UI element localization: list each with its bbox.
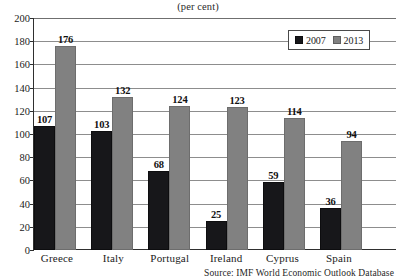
bar-value-label: 107 [37, 114, 52, 125]
bar-spain-2007[interactable]: 36 [320, 208, 341, 250]
bar-cyprus-2007[interactable]: 59 [263, 182, 284, 250]
x-axis-label-cyprus: Cyprus [260, 252, 306, 264]
bar-value-label: 123 [229, 95, 244, 106]
bar-fill [341, 141, 362, 250]
y-axis-tick-label: 120 [14, 105, 30, 116]
bar-group: 59114 [263, 18, 305, 250]
x-axis-label-italy: Italy [90, 252, 136, 264]
chart-legend: 20072013 [288, 30, 370, 50]
y-axis-tick-label: 200 [14, 13, 30, 24]
bar-portugal-2013[interactable]: 124 [169, 106, 190, 250]
source-note: Source: IMF World Economic Outlook Datab… [204, 268, 394, 278]
bar-group: 68124 [148, 18, 190, 250]
legend-swatch-2013 [333, 36, 341, 44]
bar-italy-2007[interactable]: 103 [91, 131, 112, 250]
x-axis-label-spain: Spain [316, 252, 362, 264]
x-axis-label-portugal: Portugal [147, 252, 193, 264]
x-axis-label-ireland: Ireland [203, 252, 249, 264]
y-axis-tick-label: 80 [20, 152, 31, 163]
x-axis-label-greece: Greece [34, 252, 80, 264]
legend-swatch-2007 [295, 36, 303, 44]
bar-fill [34, 126, 55, 250]
bar-cyprus-2013[interactable]: 114 [284, 118, 305, 250]
legend-item-2013[interactable]: 2013 [333, 35, 364, 46]
bar-fill [91, 131, 112, 250]
y-axis-tick-label: 180 [14, 36, 30, 47]
bar-value-label: 36 [325, 196, 335, 207]
bar-groups: 1071761031326812425123591143694 [34, 18, 362, 250]
y-axis-tick-label: 160 [14, 59, 30, 70]
bar-value-label: 124 [172, 94, 187, 105]
bar-value-label: 59 [268, 170, 278, 181]
bar-group: 25123 [206, 18, 248, 250]
bar-fill [284, 118, 305, 250]
y-axis-tick-label: 20 [20, 221, 31, 232]
bar-spain-2013[interactable]: 94 [341, 141, 362, 250]
bar-value-label: 68 [154, 159, 164, 170]
plot-area: 020406080100120140160180200 107176103132… [34, 18, 362, 250]
bar-ireland-2013[interactable]: 123 [227, 107, 248, 250]
bar-value-label: 176 [58, 34, 73, 45]
chart-subtitle: (per cent) [0, 1, 396, 12]
bar-portugal-2007[interactable]: 68 [148, 171, 169, 250]
y-axis-tick-label: 140 [14, 82, 30, 93]
bar-value-label: 25 [211, 209, 221, 220]
bar-fill [263, 182, 284, 250]
bar-greece-2007[interactable]: 107 [34, 126, 55, 250]
bar-group: 103132 [91, 18, 133, 250]
bar-fill [169, 106, 190, 250]
bar-value-label: 132 [115, 85, 130, 96]
bar-greece-2013[interactable]: 176 [55, 46, 76, 250]
bar-value-label: 94 [346, 129, 356, 140]
bar-fill [112, 97, 133, 250]
bar-fill [55, 46, 76, 250]
x-axis-category-labels: GreeceItalyPortugalIrelandCyprusSpain [34, 252, 362, 264]
bar-value-label: 103 [94, 119, 109, 130]
bar-fill [320, 208, 341, 250]
bar-value-label: 114 [287, 106, 302, 117]
bar-group: 107176 [34, 18, 76, 250]
bar-fill [227, 107, 248, 250]
y-axis-tick-label: 60 [20, 175, 31, 186]
y-axis-tick-label: 100 [14, 129, 30, 140]
bar-fill [206, 221, 227, 250]
bar-fill [148, 171, 169, 250]
legend-label: 2007 [306, 35, 326, 46]
bar-italy-2013[interactable]: 132 [112, 97, 133, 250]
legend-label: 2013 [344, 35, 364, 46]
bar-ireland-2007[interactable]: 25 [206, 221, 227, 250]
bar-group: 3694 [320, 18, 362, 250]
y-axis-tick-label: 40 [20, 198, 31, 209]
legend-item-2007[interactable]: 2007 [295, 35, 326, 46]
